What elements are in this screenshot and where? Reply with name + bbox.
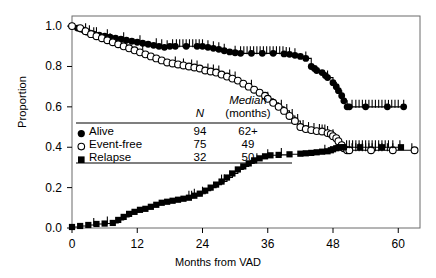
legend-n-value: 32 (194, 151, 207, 163)
x-tick-label: 60 (392, 237, 406, 251)
data-point-filled-circle (324, 74, 331, 81)
legend-label-relapse: Relapse (89, 151, 131, 163)
data-point-filled-square (235, 166, 241, 172)
data-point-filled-square (85, 222, 91, 228)
y-tick-label: 0.8 (45, 59, 62, 73)
data-point-filled-square (175, 197, 181, 203)
data-point-filled-square (77, 223, 83, 229)
data-point-filled-square (159, 200, 165, 206)
data-point-filled-square (93, 221, 99, 227)
legend-median-value: 62+ (238, 125, 258, 137)
data-point-filled-square (148, 204, 154, 210)
data-point-filled-square (303, 150, 309, 156)
kaplan-meier-plot: 012243648600.00.20.40.60.81.0MedianN(mon… (0, 0, 436, 278)
x-tick-label: 48 (326, 237, 340, 251)
data-point-filled-square (224, 174, 230, 180)
legend-label-event-free: Event-free (89, 138, 142, 150)
data-point-filled-square (69, 224, 75, 230)
data-point-filled-square (202, 188, 208, 194)
data-point-filled-square (398, 144, 404, 150)
data-point-filled-circle (340, 97, 347, 104)
data-point-filled-circle (172, 43, 179, 50)
legend-marker-filled-circle (78, 130, 85, 137)
data-point-filled-square (308, 150, 314, 156)
data-point-filled-circle (400, 103, 407, 110)
data-point-filled-circle (362, 103, 369, 110)
x-tick-label: 24 (196, 237, 210, 251)
data-point-open-circle (411, 147, 418, 154)
legend-marker-open-circle (78, 143, 85, 150)
data-point-filled-square (286, 151, 292, 157)
legend-header-median: Median (229, 94, 267, 106)
data-point-filled-circle (302, 55, 309, 62)
data-point-filled-square (137, 207, 143, 213)
chart-figure: 012243648600.00.20.40.60.81.0MedianN(mon… (0, 0, 436, 278)
x-axis-label: Months from VAD (0, 256, 436, 268)
data-point-filled-square (186, 195, 192, 201)
data-point-filled-square (240, 163, 246, 169)
legend-marker-filled-square (78, 156, 85, 163)
y-tick-label: 0.2 (45, 181, 62, 195)
data-point-filled-square (142, 206, 148, 212)
data-point-filled-square (164, 199, 170, 205)
data-point-filled-square (102, 220, 108, 226)
data-point-filled-square (115, 217, 121, 223)
data-point-filled-circle (183, 43, 190, 50)
data-point-open-circle (292, 118, 299, 125)
data-point-filled-square (218, 178, 224, 184)
data-point-filled-square (126, 211, 132, 217)
data-point-filled-square (379, 144, 385, 150)
y-tick-label: 0.6 (45, 100, 62, 114)
data-point-filled-square (319, 149, 325, 155)
data-point-filled-circle (259, 50, 266, 57)
y-axis-label: Proportion (16, 54, 28, 150)
data-point-filled-circle (384, 103, 391, 110)
data-point-filled-square (276, 152, 282, 158)
x-tick-label: 0 (69, 237, 76, 251)
data-point-filled-square (297, 151, 303, 157)
data-point-filled-square (341, 144, 347, 150)
legend-label-alive: Alive (89, 125, 114, 137)
x-tick-label: 12 (131, 237, 145, 251)
data-point-filled-square (357, 144, 363, 150)
legend-median-value: 50 (242, 151, 255, 163)
data-point-filled-square (267, 152, 273, 158)
data-point-filled-square (191, 193, 197, 199)
data-point-filled-square (131, 209, 137, 215)
legend-n-value: 94 (194, 125, 207, 137)
data-point-filled-square (197, 191, 203, 197)
legend-n-value: 75 (194, 138, 207, 150)
legend-header-n: N (196, 107, 205, 119)
y-tick-label: 0.0 (45, 221, 62, 235)
data-point-open-circle (69, 23, 76, 30)
data-point-filled-circle (237, 50, 244, 57)
data-point-filled-square (262, 153, 268, 159)
x-tick-label: 36 (261, 237, 275, 251)
data-point-filled-square (213, 181, 219, 187)
data-point-open-circle (281, 107, 288, 114)
data-point-filled-square (169, 198, 175, 204)
data-point-filled-square (180, 196, 186, 202)
data-point-filled-square (121, 214, 127, 220)
data-point-filled-square (208, 185, 214, 191)
legend-median-value: 49 (242, 138, 255, 150)
y-tick-label: 0.4 (45, 140, 62, 154)
data-point-filled-square (153, 202, 159, 208)
data-point-filled-square (229, 170, 235, 176)
data-point-filled-circle (346, 103, 353, 110)
data-point-filled-square (256, 155, 262, 161)
data-point-filled-circle (248, 50, 255, 57)
data-point-filled-circle (270, 50, 277, 57)
y-tick-label: 1.0 (45, 19, 62, 33)
data-point-filled-square (110, 220, 116, 226)
data-point-filled-square (314, 149, 320, 155)
data-point-open-circle (286, 113, 293, 120)
legend-header-months: (months) (225, 107, 271, 119)
